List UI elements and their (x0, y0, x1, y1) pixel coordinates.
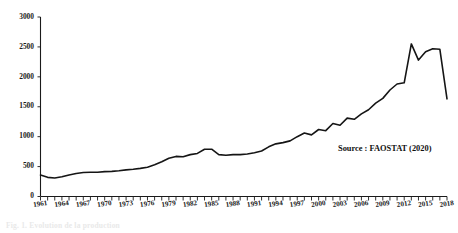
y-tick-label: 2000 (19, 72, 34, 81)
x-axis-tick-labels: 1961196419671970197319761979198219851988… (33, 199, 455, 209)
x-tick-label: 2009 (375, 199, 391, 209)
x-tick-label: 1997 (289, 199, 305, 209)
line-chart: 050010001500200025003000 196119641967197… (0, 0, 458, 233)
x-tick-label: 1991 (246, 199, 262, 209)
y-tick-label: 3000 (19, 12, 34, 21)
x-tick-label: 1961 (33, 199, 49, 209)
x-tick-label: 1976 (140, 199, 156, 209)
x-tick-label: 2018 (439, 199, 455, 209)
x-tick-label: 1982 (182, 199, 198, 209)
x-tick-label: 1970 (97, 199, 113, 209)
x-tick-label: 1994 (268, 199, 284, 209)
source-annotation: Source : FAOSTAT (2020) (338, 144, 432, 153)
x-tick-label: 2006 (353, 199, 369, 209)
x-tick-label: 2012 (396, 199, 412, 209)
y-tick-label: 2500 (19, 42, 34, 51)
y-tick-label: 1000 (19, 131, 34, 140)
x-tick-label: 2003 (332, 199, 348, 209)
y-tick-label: 1500 (19, 101, 34, 110)
data-series-line (41, 44, 448, 178)
y-axis-tick-labels: 050010001500200025003000 (19, 12, 34, 201)
x-tick-label: 2000 (311, 199, 327, 209)
x-tick-label: 1973 (118, 199, 134, 209)
x-tick-label: 2015 (418, 199, 434, 209)
x-tick-label: 1985 (204, 199, 220, 209)
figure-container: 050010001500200025003000 196119641967197… (0, 0, 458, 233)
y-tick-label: 0 (30, 191, 34, 200)
figure-caption: Fig. 1. Evolution de la production (6, 221, 120, 230)
x-tick-label: 1964 (54, 199, 70, 209)
x-tick-label: 1979 (161, 199, 177, 209)
x-tick-label: 1988 (225, 199, 241, 209)
y-tick-label: 500 (23, 161, 34, 170)
x-tick-label: 1967 (75, 199, 91, 209)
